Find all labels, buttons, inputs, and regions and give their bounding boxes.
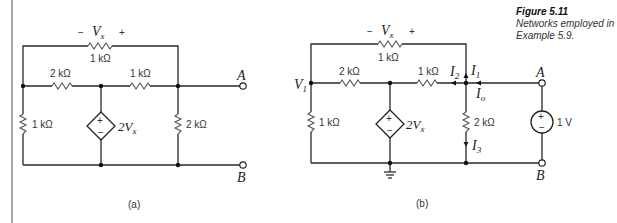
current-i2-label: I2	[449, 64, 460, 81]
node-v1-label: V1	[294, 77, 307, 94]
dep-minus-a: −	[98, 127, 104, 138]
test-minus: −	[539, 122, 545, 133]
dep-source-label-b: 2Vx	[406, 117, 424, 134]
caption-b: (b)	[416, 198, 428, 209]
terminal-b-b	[539, 160, 545, 166]
label-1k-series-a: 1 kΩ	[130, 68, 151, 79]
vx-minus-a: −	[78, 27, 84, 38]
resistor-1k-series-a	[130, 83, 150, 89]
top-wire-a	[23, 46, 178, 86]
current-io-label: Io	[475, 86, 486, 103]
resistor-top-b	[378, 41, 402, 47]
terminal-label-b-a: B	[237, 170, 246, 185]
terminal-label-a-b: A	[535, 65, 545, 80]
figure-caption: Networks employed in Example 5.9.	[516, 18, 616, 42]
label-2k-series-a: 2 kΩ	[50, 68, 71, 79]
vx-minus-b: −	[367, 26, 373, 37]
arrow-i2	[451, 81, 456, 86]
test-plus: +	[538, 111, 544, 122]
vx-label-b: Vx	[381, 23, 394, 40]
label-top-resistor-a: 1 kΩ	[90, 53, 111, 64]
resistor-2k-series-a	[52, 83, 72, 89]
label-1k-shunt-a: 1 kΩ	[32, 119, 53, 130]
node-a3	[176, 84, 180, 88]
current-i1-label: I1	[470, 63, 480, 80]
resistor-2k-shunt-a	[175, 114, 181, 134]
arrow-io	[476, 81, 481, 86]
node-a2	[99, 84, 103, 88]
dep-plus-b: +	[386, 113, 392, 124]
dep-minus-b: −	[387, 125, 393, 136]
node-b3	[464, 81, 468, 85]
arrow-i1	[464, 73, 469, 78]
resistor-1k-shunt-a	[20, 114, 26, 134]
label-1k-series-b: 1 kΩ	[418, 66, 439, 77]
terminal-a-b	[539, 80, 545, 86]
node-b2	[388, 81, 392, 85]
resistor-2k-shunt-b	[463, 112, 469, 132]
resistor-1k-shunt-b	[308, 112, 314, 132]
vx-plus-b: +	[409, 26, 415, 37]
vx-label-a: Vx	[92, 24, 105, 41]
node-b4	[388, 161, 392, 165]
label-top-resistor-b: 1 kΩ	[378, 52, 399, 63]
node-a4	[99, 163, 103, 167]
resistor-2k-series-b	[340, 80, 360, 86]
label-1k-shunt-b: 1 kΩ	[319, 117, 340, 128]
circuit-b: 1 kΩ − Vx + V1 2 kΩ 1 kΩ I2 I1 Io I3 1 k…	[294, 23, 572, 209]
current-i3-label: I3	[471, 138, 482, 155]
dep-source-label-a: 2Vx	[118, 119, 136, 136]
circuit-a: 1 kΩ − Vx + 2 kΩ 1 kΩ 1 kΩ + − 2Vx 2 kΩ	[20, 24, 246, 210]
figure-title: Figure 5.11	[516, 6, 568, 17]
terminal-label-a-a: A	[236, 68, 246, 83]
terminal-label-b-b: B	[536, 168, 545, 183]
node-b1	[309, 81, 313, 85]
label-2k-shunt-a: 2 kΩ	[186, 119, 207, 130]
node-a5	[176, 163, 180, 167]
node-a1	[21, 84, 25, 88]
resistor-1k-series-b	[417, 80, 437, 86]
node-b5	[464, 161, 468, 165]
dep-plus-a: +	[97, 115, 103, 126]
terminal-b-a	[240, 162, 246, 168]
label-2k-shunt-b: 2 kΩ	[474, 117, 495, 128]
test-source-label: 1 V	[557, 117, 572, 128]
resistor-top-a	[88, 43, 112, 49]
label-2k-series-b: 2 kΩ	[339, 66, 360, 77]
ground-icon	[384, 163, 396, 178]
caption-a: (a)	[128, 199, 140, 210]
top-wire-b	[311, 44, 466, 83]
terminal-a-a	[240, 83, 246, 89]
vx-plus-a: +	[119, 27, 125, 38]
